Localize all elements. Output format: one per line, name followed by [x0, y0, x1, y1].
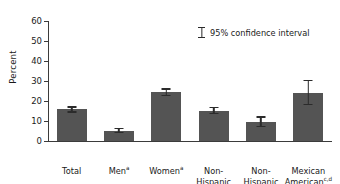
- bar: [57, 109, 87, 141]
- x-tick-label: Total: [48, 166, 95, 177]
- x-tick-label: Mena: [95, 166, 142, 177]
- error-bar: [114, 128, 123, 133]
- bar-slot: [190, 21, 237, 141]
- error-bar: [67, 106, 76, 112]
- plot-area: 0102030405060 TotalMenaWomenaNon-Hispani…: [48, 21, 332, 141]
- x-tick-label: Womena: [143, 166, 190, 177]
- x-tick-label: MexicanAmericanc,d: [285, 166, 332, 184]
- bar-slot: [237, 21, 284, 141]
- y-tick-label: 30: [31, 76, 42, 86]
- x-axis-line: [48, 141, 332, 142]
- bar-chart: Percent 0102030405060 TotalMenaWomenaNon…: [0, 0, 340, 184]
- error-bar: [304, 80, 313, 106]
- error-bar: [209, 107, 218, 114]
- error-bar: [256, 116, 265, 127]
- y-tick-label: 20: [31, 96, 42, 106]
- bar: [151, 92, 181, 141]
- y-tick-label: 60: [31, 16, 42, 26]
- x-label-superscript: c,d: [324, 176, 332, 182]
- bar-slot: [285, 21, 332, 141]
- y-tick-label: 40: [31, 56, 42, 66]
- x-tick-label: Non-Hispanicblackb,d: [237, 166, 284, 184]
- bar-slot: [48, 21, 95, 141]
- error-bar-icon: [198, 27, 205, 38]
- bar: [199, 111, 229, 141]
- legend-label: 95% confidence interval: [210, 28, 309, 38]
- x-tick-label: Non-Hispanicwhiteb,c: [190, 166, 237, 184]
- x-label-superscript: a: [126, 165, 129, 171]
- y-tick-label: 50: [31, 36, 42, 46]
- bar-slot: [143, 21, 190, 141]
- legend: 95% confidence interval: [198, 27, 309, 38]
- y-axis-label: Percent: [8, 32, 18, 102]
- y-tick-label: 10: [31, 116, 42, 126]
- y-tick-label: 0: [37, 136, 42, 146]
- x-label-superscript: a: [180, 165, 183, 171]
- bar-slot: [95, 21, 142, 141]
- error-bar: [162, 88, 171, 96]
- y-tick-mark: [44, 141, 48, 142]
